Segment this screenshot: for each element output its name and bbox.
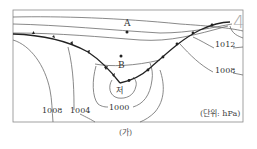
isobar	[140, 70, 163, 122]
isobar-label-1012: 1012	[215, 40, 235, 49]
point-b-label: B	[118, 60, 125, 70]
cold-front-triangles	[32, 31, 115, 77]
isobar-1004	[80, 114, 95, 122]
point-b-marker	[120, 55, 123, 58]
isobar-1012	[193, 37, 214, 48]
corner-figure-number: 4	[233, 11, 244, 32]
isobar-label-1008-right: 1008	[215, 66, 235, 75]
cold-front	[13, 34, 120, 83]
isobar-inner	[110, 77, 137, 98]
point-a-label: A	[123, 18, 131, 28]
point-a-marker	[126, 31, 129, 34]
isobar-1000	[93, 66, 108, 107]
isobar-label-1000: 1000	[109, 103, 129, 112]
weather-map: A B 저 1012 1008 1008 1004 1000 (단위: hPa)…	[0, 0, 257, 149]
low-pressure-label: 저	[116, 86, 123, 95]
figure-caption: (가)	[119, 128, 132, 137]
isobar-1008	[180, 44, 213, 72]
isobar-label-1008-left: 1008	[42, 106, 62, 115]
isobar-label-1004: 1004	[70, 106, 90, 115]
isobar-1004	[68, 47, 74, 110]
unit-label: (단위: hPa)	[200, 108, 240, 118]
